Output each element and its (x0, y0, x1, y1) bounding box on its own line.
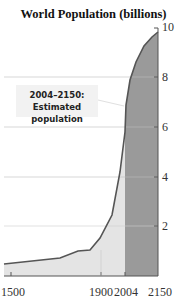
y-tick-8: 8 (162, 70, 168, 85)
x-tick-2150: 2150 (148, 285, 172, 300)
estimate-callout: 2004–2150: Estimated population (16, 85, 98, 117)
callout-line2: Estimated population (16, 101, 98, 125)
callout-line1: 2004–2150: (16, 89, 98, 101)
y-tick-10: 10 (162, 20, 174, 35)
y-tick-2: 2 (162, 219, 168, 234)
x-tick-1900: 1900 (89, 285, 113, 300)
x-tick-1500: 1500 (1, 285, 25, 300)
estimated-area (125, 32, 158, 276)
chart-plot (0, 0, 179, 305)
y-tick-4: 4 (162, 170, 168, 185)
x-tick-2004: 2004 (114, 285, 138, 300)
y-tick-6: 6 (162, 120, 168, 135)
historical-area (4, 132, 125, 276)
